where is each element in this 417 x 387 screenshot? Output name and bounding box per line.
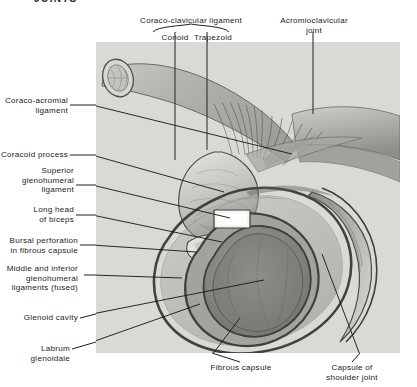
label-glenoid-cavity: Glenoid cavity <box>0 313 78 323</box>
label-trapezoid: Trapezoid <box>184 33 242 43</box>
label-fibrous-capsule: Fibrous capsule <box>200 363 282 373</box>
label-middle-inferior-glenohumeral-ligaments: Middle and inferior glenohumeral ligamen… <box>0 264 78 293</box>
label-coraco-acromial-ligament: Coraco-acromial ligament <box>0 96 68 115</box>
label-superior-glenohumeral-ligament: Superior glenohumeral ligament <box>0 166 74 195</box>
shoulder-joint-figure <box>96 42 400 353</box>
anatomy-illustration <box>96 42 400 353</box>
label-coracoid-process: Coracoid process <box>0 150 68 160</box>
label-labrum-glenoidale: Labrum glenoidale <box>0 344 70 363</box>
label-coraco-clavicular-ligament: Coraco-clavicular ligament <box>128 16 254 26</box>
label-long-head-of-biceps: Long head of biceps <box>0 205 74 224</box>
label-acromioclavicular-joint: Acromioclavicular joint <box>269 16 359 35</box>
label-capsule-of-shoulder-joint: Capsule of shoulder joint <box>312 363 392 382</box>
page-title: JOINTS <box>34 0 77 4</box>
label-bursal-perforation: Bursal perforation in fibrous capsule <box>0 236 78 255</box>
